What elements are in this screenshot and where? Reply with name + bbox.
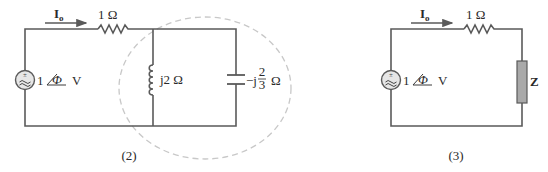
svg-text:1: 1 <box>403 73 410 88</box>
current-label: Io <box>420 6 430 23</box>
svg-text:1: 1 <box>37 73 44 88</box>
inductor-label: j2 Ω <box>159 72 183 87</box>
wire-top-right <box>496 29 522 61</box>
ac-voltage-source-icon: ± <box>382 71 401 90</box>
wire-left <box>391 29 464 71</box>
circuit-diagrams: ± Io 1 Ω 1 Φ V j2 Ω −j 2 3 <box>0 0 548 172</box>
wire-bottom <box>391 89 522 126</box>
resistor-icon <box>98 25 130 33</box>
circuit-2: ± Io 1 Ω 1 Φ V j2 Ω −j 2 3 <box>16 6 292 163</box>
svg-text:±: ± <box>389 71 393 79</box>
source-label: 1 Φ V <box>37 72 82 88</box>
svg-text:−j: −j <box>246 73 257 88</box>
impedance-box-icon <box>517 61 527 103</box>
capacitor-label: −j 2 3 Ω <box>246 64 281 92</box>
resistor-label: 1 Ω <box>466 7 485 22</box>
caption-3: (3) <box>448 148 463 163</box>
inductor-icon <box>149 65 153 95</box>
current-label: Io <box>54 6 64 23</box>
svg-text:V: V <box>438 73 448 88</box>
wire-left <box>25 29 98 71</box>
svg-text:Ω: Ω <box>271 73 281 88</box>
capacitor-icon <box>227 75 245 84</box>
wire-top <box>130 29 236 75</box>
svg-text:±: ± <box>23 71 27 79</box>
impedance-label: Z <box>530 74 539 89</box>
svg-text:Φ: Φ <box>418 72 428 87</box>
svg-text:Φ: Φ <box>52 72 62 87</box>
svg-text:3: 3 <box>259 77 266 92</box>
resistor-label: 1 Ω <box>98 7 117 22</box>
svg-text:V: V <box>72 73 82 88</box>
caption-2: (2) <box>121 148 136 163</box>
wire-bottom <box>25 84 236 126</box>
resistor-icon <box>464 25 496 33</box>
circuit-3: ± Io 1 Ω 1 Φ V Z (3) <box>382 6 540 163</box>
ac-voltage-source-icon: ± <box>16 71 35 90</box>
source-label: 1 Φ V <box>403 72 448 88</box>
